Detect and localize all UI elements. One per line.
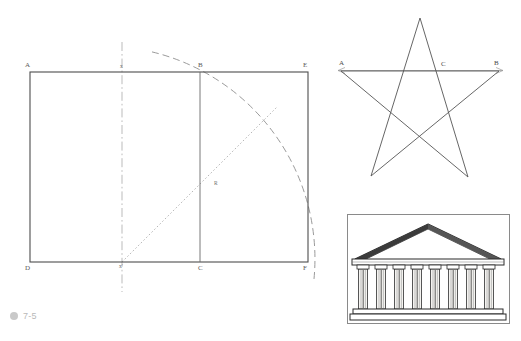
- temple-column: [483, 265, 495, 309]
- label-star-point-c: C: [441, 60, 446, 68]
- temple-column: [393, 265, 405, 309]
- outer-rectangle: [30, 72, 308, 262]
- label-point-c: C: [198, 264, 203, 272]
- temple-column: [411, 265, 423, 309]
- golden-rectangle-group: [30, 42, 315, 292]
- figure-number: 7-5: [23, 311, 37, 321]
- label-point-x: x: [120, 62, 123, 70]
- label-point-e: E: [303, 61, 307, 69]
- radius-line: [122, 107, 277, 262]
- temple-column: [375, 265, 387, 309]
- temple-stylobate-upper: [353, 309, 503, 314]
- label-star-point-a: A: [339, 59, 344, 67]
- figure-caption: 7-5: [10, 309, 37, 323]
- label-point-x-prime: x': [119, 262, 123, 270]
- bullet-dot-icon: [10, 312, 18, 320]
- temple-stylobate-lower: [350, 314, 506, 320]
- label-radius-r: R: [214, 179, 218, 187]
- label-point-a: A: [25, 61, 30, 69]
- greek-temple-group: [348, 215, 510, 324]
- temple-column: [357, 265, 369, 309]
- temple-column: [465, 265, 477, 309]
- figures-canvas: [0, 0, 521, 341]
- temple-column: [447, 265, 459, 309]
- label-star-point-b: B: [494, 59, 499, 67]
- figure-page: A x B E D x' C F R A C B 7-5: [0, 0, 521, 341]
- pentagram-star: [341, 18, 499, 177]
- label-point-f: F: [303, 264, 307, 272]
- label-point-b: B: [198, 61, 203, 69]
- pentagram-group: [338, 18, 503, 177]
- label-point-d: D: [25, 264, 30, 272]
- temple-column: [429, 265, 441, 309]
- construction-arc: [152, 52, 315, 279]
